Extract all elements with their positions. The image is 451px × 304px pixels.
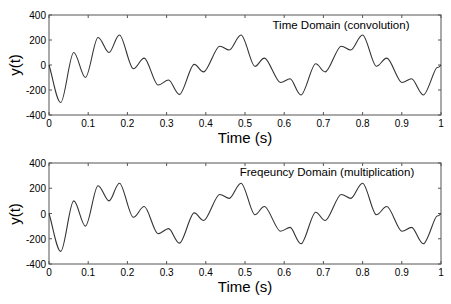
y-tick-label: 400 bbox=[29, 10, 46, 21]
x-tick-label: 0.7 bbox=[316, 118, 330, 129]
x-tick-label: 0.5 bbox=[238, 118, 252, 129]
x-tick-label: 0.1 bbox=[81, 267, 95, 278]
x-tick-label: 0.5 bbox=[238, 267, 252, 278]
x-axis-label: Time (s) bbox=[218, 129, 272, 146]
y-tick-label: -400 bbox=[26, 259, 46, 270]
x-tick-label: 0.2 bbox=[120, 118, 134, 129]
plot-title: Freqeuncy Domain (multiplication) bbox=[240, 166, 415, 178]
axes-box bbox=[49, 163, 441, 264]
plot-frequency-domain: 00.10.20.30.40.50.60.70.80.91 4002000-20… bbox=[6, 158, 444, 295]
plot-time-domain: 00.10.20.30.40.50.60.70.80.91 4002000-20… bbox=[6, 10, 444, 146]
x-tick-label: 1 bbox=[438, 267, 444, 278]
figure: 00.10.20.30.40.50.60.70.80.91 4002000-20… bbox=[0, 0, 451, 304]
y-tick-label: 200 bbox=[29, 183, 46, 194]
x-tick-label: 0.6 bbox=[277, 267, 291, 278]
x-tick-label: 0.1 bbox=[81, 118, 95, 129]
x-tick-label: 0.2 bbox=[120, 267, 134, 278]
y-tick-label: 0 bbox=[40, 60, 46, 71]
y-axis-label: y(t) bbox=[6, 203, 23, 225]
plot-title: Time Domain (convolution) bbox=[273, 19, 410, 31]
x-tick-label: 0.3 bbox=[160, 267, 174, 278]
x-tick-label: 0.4 bbox=[199, 118, 213, 129]
y-tick-label: 200 bbox=[29, 35, 46, 46]
y-axis-label: y(t) bbox=[6, 54, 23, 76]
x-tick-label: 1 bbox=[438, 118, 444, 129]
y-tick-label: -200 bbox=[26, 85, 46, 96]
x-tick-label: 0.9 bbox=[395, 267, 409, 278]
x-tick-label: 0.6 bbox=[277, 118, 291, 129]
x-tick-label: 0.9 bbox=[395, 118, 409, 129]
y-tick-label: 0 bbox=[40, 209, 46, 220]
x-tick-label: 0 bbox=[46, 267, 52, 278]
x-tick-label: 0 bbox=[46, 118, 52, 129]
x-tick-label: 0.7 bbox=[316, 267, 330, 278]
y-tick-label: -400 bbox=[26, 110, 46, 121]
x-tick-label: 0.8 bbox=[356, 118, 370, 129]
y-tick-label: -200 bbox=[26, 234, 46, 245]
x-tick-label: 0.3 bbox=[160, 118, 174, 129]
y-tick-label: 400 bbox=[29, 158, 46, 169]
x-axis-label: Time (s) bbox=[218, 278, 272, 295]
x-tick-label: 0.8 bbox=[356, 267, 370, 278]
x-tick-label: 0.4 bbox=[199, 267, 213, 278]
